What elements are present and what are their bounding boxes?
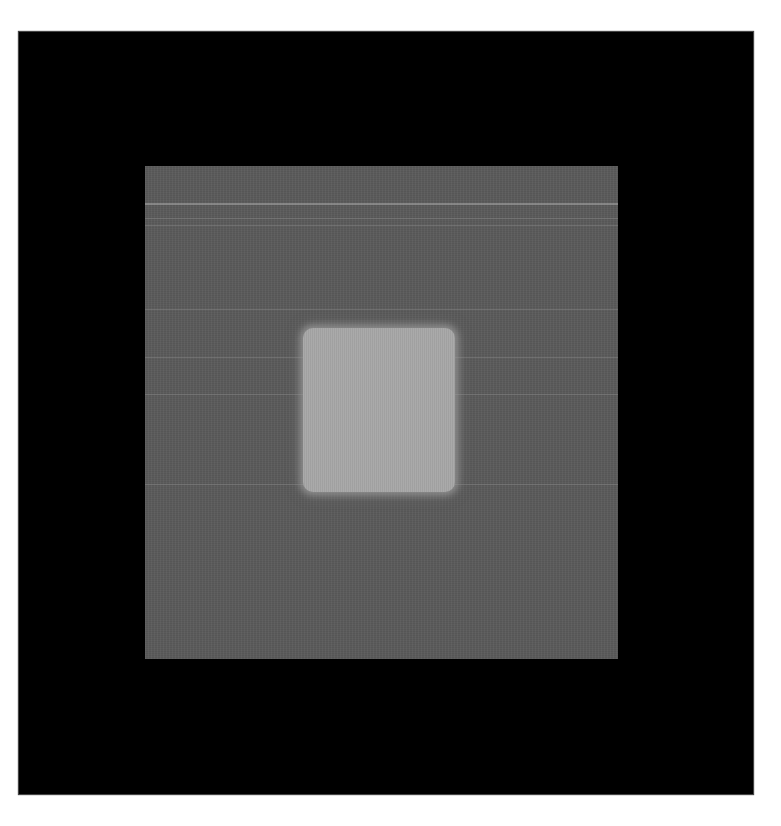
scan-line [145,309,618,310]
scan-line [145,203,618,205]
image-canvas [0,0,781,826]
scan-line [145,225,618,226]
gray-square-region [145,166,618,659]
bright-center-square [303,328,455,492]
scan-line [145,218,618,219]
